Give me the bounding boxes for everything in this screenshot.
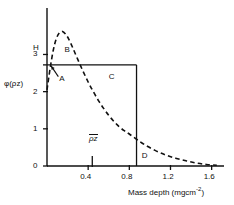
y-tick-label: 0 — [33, 162, 37, 170]
x-tick-label: 0.8 — [121, 173, 132, 181]
y-tick-label: 1 — [33, 125, 37, 133]
annotation-b-label: B — [64, 46, 69, 54]
x-axis-title: Mass depth (mgcm-2) — [128, 186, 204, 197]
annotation-d-label: D — [142, 152, 148, 160]
axes-group — [47, 8, 224, 166]
y-axis-title: φ(ρz) — [4, 80, 23, 88]
phi-rho-z-curve — [47, 31, 217, 165]
annotation-a-arrow — [51, 66, 58, 77]
y-tick-label: 2 — [33, 88, 37, 96]
figure-container: φ(ρz) H ρz A B C D Mass depth (mgcm-2) 0… — [0, 0, 234, 205]
x-tick-label: 1.6 — [204, 173, 215, 181]
x-axis-title-close: ) — [201, 188, 204, 197]
phi-rho-z-chart — [0, 0, 234, 205]
annotation-a-label: A — [59, 75, 64, 83]
mean-mass-depth-label: ρz — [89, 134, 98, 143]
x-tick-label: 0.4 — [80, 173, 91, 181]
y-tick-label: 3 — [33, 50, 37, 58]
x-tick-label: 1.2 — [162, 173, 173, 181]
x-axis-title-main: Mass depth (mgcm — [128, 188, 196, 197]
annotation-c-label: C — [109, 73, 115, 81]
